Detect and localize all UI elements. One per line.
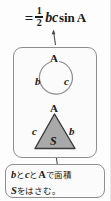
formula-variables-bc: bc [45,10,58,26]
triangle-area-label-s: S [50,135,57,147]
caption-text-to-1: と [16,170,25,180]
caption-line-1: bとcとAで面積 [11,167,100,183]
caption-text-to-2: と [29,170,38,180]
angle-arc-diagram: A b c [26,52,84,102]
formula-equals-sign: = [25,10,34,27]
formula-fraction-one-half: 1 2 [35,6,43,28]
arrow-arc-to-formula [52,30,56,46]
area-formula: = 1 2 bc sin A [0,6,111,30]
triangle-diagram: A c b S [24,103,86,153]
caption-line-2: Sをはさむ。 [11,183,100,199]
caption-var-a: A [38,169,45,180]
arc-angle-label-a: A [50,53,58,64]
caption-box: bとcとAで面積 Sをはさむ。 [5,164,105,198]
triangle-side-label-b: b [69,126,75,137]
fraction-numerator: 1 [36,6,43,16]
formula-sin-function: sin [59,10,75,26]
area-formula-figure: = 1 2 bc sin A A b c [0,0,111,201]
caption-text-de-menseki: で面積 [46,170,72,180]
formula-angle-a: A [77,10,86,26]
fraction-denominator: 2 [36,18,43,28]
arc-side-label-c: c [64,76,69,87]
caption-text-wo-hasamu: をはさむ。 [17,186,61,196]
arc-side-label-b: b [35,76,41,87]
triangle-side-label-c: c [32,126,37,137]
triangle-apex-label-a: A [50,103,58,114]
right-edge-hairline [110,0,111,201]
